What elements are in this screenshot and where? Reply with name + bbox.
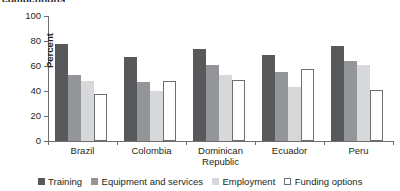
bar-group: [186, 16, 255, 141]
bar: [232, 80, 245, 141]
legend-item[interactable]: Funding options: [284, 176, 362, 187]
legend-item[interactable]: Employment: [212, 176, 275, 187]
y-tick-label: 20: [30, 110, 41, 121]
legend-swatch-icon: [38, 178, 45, 185]
plot-area: Percent 020406080100: [48, 16, 393, 141]
legend-swatch-icon: [91, 178, 98, 185]
x-category-label: Colombia: [117, 146, 186, 157]
bar: [68, 75, 81, 141]
x-category-label: DominicanRepublic: [186, 146, 255, 167]
chart-legend: TrainingEquipment and servicesEmployment…: [0, 176, 400, 187]
x-category-label: Peru: [324, 146, 393, 157]
bar: [150, 91, 163, 141]
bar-group: [48, 16, 117, 141]
x-axis-line: [48, 141, 394, 142]
bar: [124, 57, 137, 141]
x-axis-separator: [48, 141, 49, 145]
x-category-label: Ecuador: [255, 146, 324, 157]
bar: [81, 81, 94, 141]
x-axis-separator: [255, 141, 256, 145]
y-tick-label: 60: [30, 60, 41, 71]
bar: [206, 65, 219, 141]
x-axis-separator: [324, 141, 325, 145]
y-tick-label: 40: [30, 85, 41, 96]
x-axis-separator: [186, 141, 187, 145]
x-axis-separator: [393, 141, 394, 145]
legend-label: Equipment and services: [102, 176, 203, 187]
y-tick-label: 80: [30, 35, 41, 46]
y-tick-label: 0: [36, 135, 41, 146]
bar: [344, 61, 357, 141]
bar: [370, 90, 383, 141]
legend-label: Training: [48, 176, 82, 187]
bar: [288, 87, 301, 141]
bar: [163, 81, 176, 141]
bar: [262, 55, 275, 141]
bar: [193, 49, 206, 142]
bar-chart-figure: competitions Percent 020406080100 Brazil…: [0, 0, 400, 191]
bar: [275, 72, 288, 141]
bar-group: [324, 16, 393, 141]
bar: [301, 69, 314, 142]
bar: [137, 82, 150, 141]
legend-swatch-icon: [284, 178, 291, 185]
legend-label: Funding options: [295, 176, 363, 187]
bar: [219, 75, 232, 141]
bar: [331, 46, 344, 141]
bar-group: [117, 16, 186, 141]
legend-label: Employment: [222, 176, 275, 187]
x-axis-separator: [117, 141, 118, 145]
bar: [55, 44, 68, 142]
y-tick-label: 100: [25, 10, 41, 21]
bar-group: [255, 16, 324, 141]
legend-swatch-icon: [212, 178, 219, 185]
bar: [94, 94, 107, 142]
legend-item[interactable]: Equipment and services: [91, 176, 203, 187]
clipped-heading: competitions: [2, 0, 65, 2]
x-category-label: Brazil: [48, 146, 117, 157]
bar: [357, 65, 370, 141]
legend-item[interactable]: Training: [38, 176, 82, 187]
